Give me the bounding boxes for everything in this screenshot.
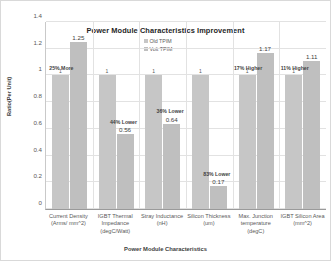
x-axis-category-line: Impedance: [93, 220, 138, 227]
bar-value-label: 0.17: [212, 178, 224, 185]
x-axis-category-label: IGBT ThermalImpedance(degC/Watt): [92, 213, 139, 235]
bars: 10.56: [93, 22, 140, 209]
bar-value-label: 1.25: [72, 34, 84, 41]
bar-value-label: 1.11: [306, 53, 318, 60]
x-axis-category-line: temperature: [233, 220, 278, 227]
x-axis-category-line: Max. Junction: [233, 213, 278, 220]
bar-group: 11.1717% Higher: [233, 22, 280, 209]
x-axis-category-labels: Current Density(Arms/ mm^2)IGBT ThermalI…: [45, 213, 326, 235]
y-axis-tick-label: 0.8: [33, 92, 42, 99]
x-axis-category-label: Max. Junctiontemperature(degC): [232, 213, 279, 235]
y-axis-tick-label: 0.2: [33, 172, 42, 179]
x-axis-category-line: (nH): [140, 220, 185, 227]
x-axis-category-line: Silicon Thickness: [186, 213, 231, 220]
bar-volt-tpim[interactable]: 0.64: [163, 124, 180, 209]
bar-annotation: 36% Lower: [157, 108, 184, 114]
bars: 10.17: [186, 22, 233, 209]
x-axis-title: Power Module Characteristics: [1, 246, 330, 252]
bar-value-label: 1: [152, 68, 155, 74]
bar-group: 10.6436% Lower: [139, 22, 186, 209]
x-axis-category-label: Current Density(Arms/ mm^2): [45, 213, 92, 235]
bar-value-label: 1: [106, 68, 109, 74]
bar-group: 10.5644% Lower: [93, 22, 140, 209]
y-axis-title: Ratio(Per Unit): [6, 77, 12, 116]
x-axis-category-label: Silicon Thickness(um): [185, 213, 232, 235]
x-axis-category-line: IGBT Silicon Area: [280, 213, 325, 220]
bar-group: 11.2525% More: [46, 22, 93, 209]
bar-value-label: 1: [199, 68, 202, 74]
chart-container: Power Module Characteristics Improvement…: [0, 0, 331, 261]
bar-value-label: 0.64: [166, 116, 178, 123]
bar-annotation: 25% More: [49, 65, 73, 71]
bar-value-label: 1.17: [259, 45, 271, 52]
bar-volt-tpim[interactable]: 0.56: [117, 134, 134, 209]
x-axis-category-line: (degC): [233, 228, 278, 235]
x-axis-category-line: IGBT Thermal: [93, 213, 138, 220]
bar-old-tpim[interactable]: 1: [99, 75, 116, 209]
bar-old-tpim[interactable]: 1: [145, 75, 162, 209]
y-axis-tick-label: 1.2: [33, 38, 42, 45]
bar-value-label: 0.56: [119, 126, 131, 133]
y-axis-tick-label: 0.6: [33, 118, 42, 125]
bars: 11.17: [233, 22, 280, 209]
x-axis-category-line: (um): [186, 220, 231, 227]
y-axis-tick-label: 0.4: [33, 145, 42, 152]
bar-old-tpim[interactable]: 1: [285, 75, 302, 209]
bar-old-tpim[interactable]: 1: [192, 75, 209, 209]
bar-annotation: 83% Lower: [203, 171, 230, 177]
bar-volt-tpim[interactable]: 1.17: [257, 53, 274, 209]
bar-group: 10.1783% Lower: [186, 22, 233, 209]
bars: 10.64: [139, 22, 186, 209]
x-axis-category-label: IGBT Silicon Area(mm^2): [279, 213, 326, 235]
bar-annotation: 11% Higher: [281, 65, 309, 71]
bar-old-tpim[interactable]: 1: [239, 75, 256, 209]
y-axis-tick-label: 1: [39, 65, 42, 72]
bar-volt-tpim[interactable]: 1.11: [303, 61, 320, 209]
plot-area: 00.20.40.60.811.21.4 11.2525% More10.564…: [45, 22, 326, 210]
y-axis-tick-label: 1.4: [33, 12, 42, 19]
bar-groups: 11.2525% More10.5644% Lower10.6436% Lowe…: [46, 22, 326, 209]
x-axis-category-line: (Arms/ mm^2): [46, 220, 91, 227]
bars: 11.25: [46, 22, 93, 209]
bar-old-tpim[interactable]: 1: [52, 75, 69, 209]
x-axis-category-line: Stray Inductance: [140, 213, 185, 220]
x-axis-category-label: Stray Inductance(nH): [139, 213, 186, 235]
bar-volt-tpim[interactable]: 0.17: [210, 186, 227, 209]
x-axis-category-line: (degC/Watt): [93, 228, 138, 235]
x-axis-category-line: (mm^2): [280, 220, 325, 227]
bar-annotation: 44% Lower: [110, 119, 137, 125]
bar-annotation: 17% Higher: [234, 65, 262, 71]
bar-group: 11.1111% Higher: [279, 22, 326, 209]
y-axis-tick-label: 0: [39, 199, 42, 206]
x-axis-category-line: Current Density: [46, 213, 91, 220]
bars: 11.11: [279, 22, 326, 209]
